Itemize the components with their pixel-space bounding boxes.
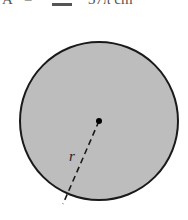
circle-diagram	[0, 0, 188, 220]
center-point	[96, 118, 102, 124]
radius-label: r	[69, 148, 75, 165]
